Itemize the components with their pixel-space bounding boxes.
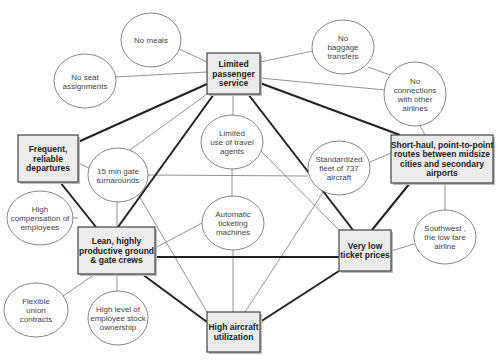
thin-connector	[368, 67, 390, 75]
node-label-line: No	[410, 77, 421, 86]
node-label-line: Very low	[348, 241, 383, 251]
node-label-line: Limited	[218, 59, 248, 69]
thin-connector	[115, 72, 207, 77]
activity-system-diagram: No mealsNo seatassignmentsNobaggagetrans…	[0, 0, 498, 360]
node-label-line: Flexible	[22, 297, 50, 306]
node-label-line: turnarounds	[97, 176, 140, 185]
node-label-line: ticket prices	[340, 250, 390, 260]
node-label-line: No seat	[71, 73, 99, 82]
node-label-line: machines	[216, 228, 250, 237]
activity-auto-ticket: Automaticticketingmachines	[202, 196, 264, 250]
node-label-line: Southwest ,	[424, 224, 466, 233]
thick-connector	[372, 183, 410, 230]
thin-connector	[370, 153, 391, 162]
node-label-line: No meals	[134, 36, 168, 45]
theme-limited-service: Limitedpassengerservice	[207, 53, 262, 96]
activity-southwest: Southwest ,the low fareairline	[414, 210, 476, 264]
node-label-line: cities and secondary	[400, 159, 484, 169]
node-label-line: airports	[426, 168, 458, 178]
activity-fleet: Standardizedfleet of 737aircraft	[308, 141, 370, 195]
node-label-line: reliable	[33, 154, 63, 164]
activity-no-connections: Noconnectionswith otherairlines	[384, 62, 446, 126]
theme-short-haul: Short-haul, point-to-pointroutes between…	[391, 135, 495, 185]
node-label-line: airlines	[402, 104, 427, 113]
node-label-line: 15 min gate	[97, 167, 139, 176]
node-label-line: High level of	[96, 305, 141, 314]
thick-connector	[142, 274, 207, 322]
node-label-line: routes between midsize	[394, 149, 490, 159]
node-label-line: fleet of 737	[319, 164, 359, 173]
thin-connector	[63, 274, 95, 296]
thin-connector	[260, 78, 385, 90]
node-label-line: productive ground	[79, 246, 154, 256]
node-label-line: employee stock	[90, 314, 147, 323]
node-label-line: the low fare	[424, 233, 466, 242]
node-label-line: Short-haul, point-to-point	[391, 140, 494, 150]
thin-connector	[391, 244, 414, 251]
node-label-line: passenger	[212, 69, 255, 79]
theme-high-util: High aircraftutilization	[207, 312, 262, 354]
node-label-line: use of travel	[210, 138, 254, 147]
theme-lean-crews: Lean, highlyproductive ground& gate crew…	[78, 227, 157, 276]
activity-travel-agents: Limiteduse of travelagents	[201, 115, 263, 169]
thin-connector	[420, 126, 425, 135]
node-label-line: Automatic	[215, 210, 251, 219]
node-label-line: aircraft	[327, 173, 352, 182]
node-label-line: & gate crews	[90, 255, 143, 265]
activity-no-seat: No seatassignments	[54, 54, 116, 108]
node-label-line: Standardized	[315, 155, 362, 164]
node-label-line: assignments	[63, 82, 108, 91]
theme-frequent: Frequent,reliabledepartures	[18, 135, 80, 184]
node-label-line: Lean, highly	[92, 236, 142, 246]
node-label-line: High aircraft	[208, 322, 258, 332]
node-label-line: No	[338, 34, 349, 43]
activity-stock: High level ofemployee stockownership	[88, 291, 148, 345]
thick-connector	[260, 271, 339, 322]
node-label-line: baggage	[327, 43, 359, 52]
theme-low-prices: Very lowticket prices	[339, 230, 393, 273]
thin-connector	[260, 51, 313, 62]
thin-connector	[148, 175, 308, 176]
node-label-line: employees	[21, 223, 60, 232]
node-label-line: ownership	[100, 323, 137, 332]
node-label-line: Frequent,	[29, 144, 68, 154]
node-label-line: connections	[394, 86, 437, 95]
node-label-line: service	[219, 78, 249, 88]
activity-high-comp: Highcompensation ofemployees	[7, 191, 73, 245]
node-label-line: airline	[434, 242, 456, 251]
node-label-line: Limited	[219, 129, 245, 138]
node-label-line: ticketing	[218, 219, 247, 228]
activity-union: Flexibleunioncontracts	[4, 283, 68, 337]
node-label-line: departures	[26, 163, 70, 173]
node-label-line: agents	[220, 147, 244, 156]
activity-gate-turn: 15 min gateturnarounds	[88, 148, 148, 202]
node-label-line: with other	[397, 95, 433, 104]
node-label-line: High	[32, 205, 48, 214]
node-label-line: contracts	[20, 315, 52, 324]
thin-connector	[179, 49, 207, 62]
activity-no-meals: No meals	[121, 13, 181, 67]
activity-no-baggage: Nobaggagetransfers	[312, 20, 374, 74]
thick-connector	[260, 83, 400, 135]
node-label-line: utilization	[214, 332, 254, 342]
node-label-line: transfers	[327, 52, 358, 61]
node-label-line: union	[26, 306, 46, 315]
node-label-line: compensation of	[11, 214, 70, 223]
